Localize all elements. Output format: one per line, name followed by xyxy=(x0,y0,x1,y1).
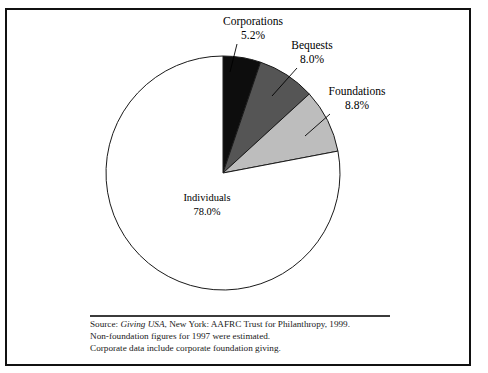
slice-value-foundations: 8.8% xyxy=(345,99,369,111)
slice-label-individuals: Individuals xyxy=(183,192,230,203)
source-divider xyxy=(90,315,390,317)
source-line-1-prefix: Source: xyxy=(90,319,120,329)
source-line-2: Non-foundation figures for 1997 were est… xyxy=(90,330,420,342)
source-line-1-italic-title: Giving USA xyxy=(120,319,164,329)
figure-root: Corporations5.2%Bequests8.0%Foundations8… xyxy=(0,0,488,373)
slice-value-bequests: 8.0% xyxy=(300,53,324,65)
slice-label-bequests: Bequests xyxy=(291,39,333,52)
slice-label-foundations: Foundations xyxy=(329,85,386,97)
slice-label-corporations: Corporations xyxy=(223,15,284,28)
source-line-3: Corporate data include corporate foundat… xyxy=(90,342,420,354)
source-note: Source: Giving USA, New York: AAFRC Trus… xyxy=(90,318,420,355)
pie-slices-group xyxy=(106,56,340,290)
slice-value-corporations: 5.2% xyxy=(241,29,265,41)
source-line-1-suffix: , New York: AAFRC Trust for Philanthropy… xyxy=(165,319,350,329)
source-line-1: Source: Giving USA, New York: AAFRC Trus… xyxy=(90,318,420,330)
slice-value-individuals: 78.0% xyxy=(193,206,220,217)
